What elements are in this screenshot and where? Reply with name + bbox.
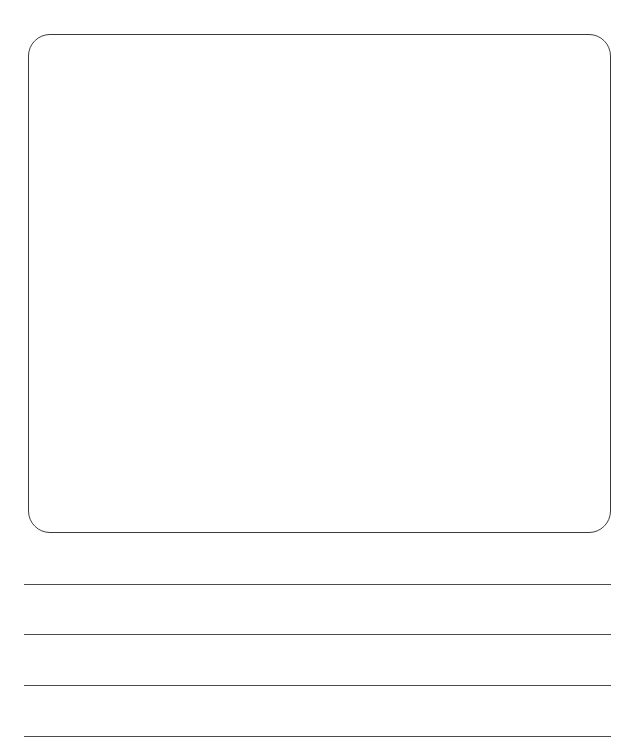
drawing-area-box[interactable] xyxy=(28,34,611,533)
writing-line-3[interactable] xyxy=(24,685,611,686)
writing-line-1[interactable] xyxy=(24,584,611,585)
writing-line-2[interactable] xyxy=(24,634,611,635)
writing-line-4[interactable] xyxy=(24,736,611,737)
